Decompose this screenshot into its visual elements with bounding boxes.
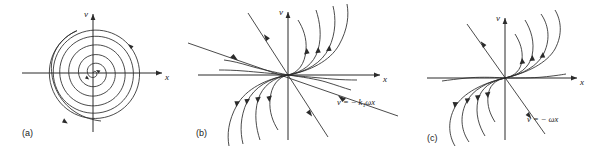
x-axis-label-b: x — [382, 74, 387, 84]
trajectory-b-ur1 — [288, 20, 306, 75]
separatrix-arrow-upper-b — [264, 34, 270, 41]
trajectory-arrow-b-ll2 — [255, 97, 261, 103]
trajectory-b-flat1 — [224, 60, 288, 75]
spiral-trajectory-a — [49, 30, 139, 118]
equation-label-c: v = − ωx — [527, 114, 559, 124]
trajectory-c-l1 — [488, 78, 505, 122]
panel-b-plot: x v — [190, 0, 405, 159]
phase-portrait-figure: x v (a) x v — [0, 0, 604, 159]
x-axis-arrowhead-b — [374, 73, 380, 78]
trajectory-b-ur2 — [288, 10, 320, 75]
trajectory-b-ll2 — [256, 75, 288, 140]
trajectory-b-flat4 — [288, 75, 357, 80]
spiral-arrow-bottom-a — [62, 118, 68, 123]
trajectory-arrow-b-ur3 — [326, 45, 332, 51]
v-axis-arrowhead-a — [91, 14, 96, 20]
trajectory-b-ur3 — [288, 6, 335, 75]
v-axis-label-b: v — [279, 7, 283, 17]
trajectory-arrow-c-r2 — [529, 55, 535, 61]
v-axis-arrowhead-c — [503, 18, 508, 24]
v-axis-arrowhead-b — [286, 12, 291, 18]
trajectory-c-r1 — [505, 34, 522, 78]
spiral-arrow-core-a — [85, 76, 89, 80]
trajectory-b-flat3 — [288, 75, 351, 90]
trajectory-arrow-b-ur2 — [315, 47, 321, 53]
panel-caption-a: (a) — [22, 128, 33, 138]
spiral-arrow-top-a — [128, 44, 134, 49]
trajectory-b-ur4 — [288, 4, 348, 75]
x-axis-arrowhead-c — [571, 76, 577, 81]
trajectory-arrow-c-l1 — [485, 92, 491, 98]
equation-text-b: v = − k₁ωx — [337, 97, 375, 107]
axes-a — [22, 14, 162, 132]
panel-caption-c: (c) — [427, 133, 438, 143]
trajectory-arrow-c-l2 — [475, 95, 481, 101]
trajectory-b-ll1 — [270, 75, 288, 130]
trajectory-b-ll4 — [228, 75, 288, 146]
trajectory-arrow-b-ll4 — [234, 101, 240, 107]
panel-a: x v (a) — [0, 0, 190, 159]
equation-text-c: v = − ωx — [527, 114, 559, 124]
panel-c: x v — [405, 0, 604, 159]
v-axis-label-a: v — [84, 9, 88, 19]
x-axis-label-c: x — [579, 77, 584, 87]
x-axis-label-a: x — [164, 72, 169, 82]
trajectory-b-ll3 — [241, 75, 288, 144]
trajectory-arrow-b-ll1 — [266, 96, 272, 102]
equation-label-b: v = − k₁ωx — [337, 97, 375, 107]
x-axis-arrowhead-a — [156, 71, 162, 76]
trajectory-c-r3 — [505, 14, 548, 78]
trajectory-arrow-b-ll3 — [244, 99, 250, 105]
trajectory-c-l3 — [462, 78, 505, 142]
trajectory-arrow-b-ur1 — [304, 48, 310, 54]
v-axis-label-c: v — [496, 13, 500, 23]
panel-caption-b: (b) — [196, 128, 207, 138]
trajectory-arrow-c-r1 — [520, 58, 526, 64]
panel-b: x v — [190, 0, 405, 159]
